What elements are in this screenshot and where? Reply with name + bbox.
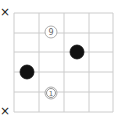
board-grid xyxy=(14,13,113,112)
white-stone: 1 xyxy=(45,87,57,99)
stones-layer: 91 xyxy=(20,26,84,99)
white-stone: 9 xyxy=(45,26,57,38)
cross-mark-icon: × xyxy=(0,105,10,117)
move-number: 9 xyxy=(48,28,53,37)
cross-mark-icon: × xyxy=(0,6,10,18)
move-number: 1 xyxy=(49,90,53,98)
go-board: 91 xyxy=(0,0,118,129)
black-stone xyxy=(20,65,34,79)
black-stone xyxy=(70,45,84,59)
